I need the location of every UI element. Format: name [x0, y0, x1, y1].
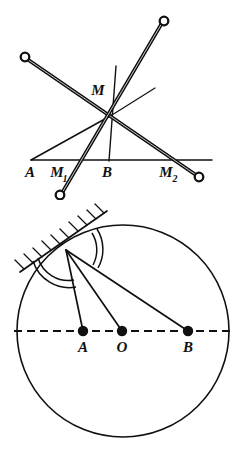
label-point-b: B: [101, 164, 112, 180]
pin-joint-upper-left: [21, 53, 30, 62]
angle-arc-inner-upper: [92, 233, 97, 265]
rod-upperleft-lowerright: [27, 59, 196, 175]
point-dot-o: [117, 326, 127, 336]
label-intersection-m: M: [90, 82, 105, 98]
ray-from-m-upright: [112, 88, 155, 115]
point-dot-b: [183, 326, 193, 336]
label-circle-point-a: A: [77, 339, 88, 355]
rod-highlight: [27, 59, 196, 175]
label-circle-center-o: O: [117, 339, 128, 355]
label-point-m2: M: [158, 164, 173, 180]
ray-to-b: [66, 250, 188, 331]
label-point-a: A: [24, 164, 35, 180]
pin-joint-lower-right: [195, 173, 204, 182]
geometry-figure-sheet: M A M 1 B M 2: [0, 0, 240, 461]
angle-arc-outer-upper: [97, 229, 103, 268]
label-point-m2-subscript: 2: [172, 173, 178, 184]
label-point-m1-subscript: 1: [63, 173, 68, 184]
rays-from-tangent-point: [66, 250, 188, 331]
linkage-panel: M A M 1 B M 2: [0, 0, 240, 200]
tangent-hatching: [15, 204, 104, 269]
circle-panel: A O B: [0, 200, 240, 461]
label-circle-point-b: B: [182, 339, 193, 355]
point-dot-a: [78, 326, 88, 336]
pin-joint-lower-left: [56, 191, 65, 200]
pin-joint-upper-right: [160, 17, 169, 26]
line-a-to-m: [31, 115, 112, 160]
